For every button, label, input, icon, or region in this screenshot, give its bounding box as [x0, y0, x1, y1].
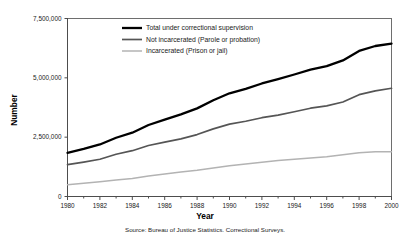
x-tick-label: 2000: [384, 202, 399, 209]
legend-label: Total under correctional supervision: [146, 24, 253, 32]
x-tick-label: 1990: [222, 202, 237, 209]
x-tick-label: 1982: [93, 202, 108, 209]
y-tick-label: 0: [58, 193, 62, 200]
legend-label: Incarcerated (Prison or jail): [146, 47, 228, 55]
y-tick-label: 2,500,000: [33, 133, 62, 140]
x-tick-label: 1996: [320, 202, 335, 209]
x-tick-label: 1986: [158, 202, 173, 209]
x-tick-label: 1994: [287, 202, 302, 209]
x-tick-label: 1998: [352, 202, 367, 209]
legend-label: Not incarcerated (Parole or probation): [146, 36, 260, 44]
y-tick-label: 5,000,000: [33, 74, 62, 81]
chart-page: 02,500,0005,000,0007,500,000 19801982198…: [0, 0, 410, 238]
y-tick-label: 7,500,000: [33, 15, 62, 22]
x-tick-label: 1984: [125, 202, 140, 209]
source-note: Source: Bureau of Justice Statistics. Co…: [125, 226, 285, 233]
x-tick-label: 1980: [60, 202, 75, 209]
y-axis-title: Number: [9, 93, 19, 125]
x-axis-title: Year: [196, 211, 214, 221]
x-tick-label: 1992: [255, 202, 270, 209]
x-tick-label: 1988: [190, 202, 205, 209]
correctional-supervision-line-chart: 02,500,0005,000,0007,500,000 19801982198…: [0, 0, 410, 238]
